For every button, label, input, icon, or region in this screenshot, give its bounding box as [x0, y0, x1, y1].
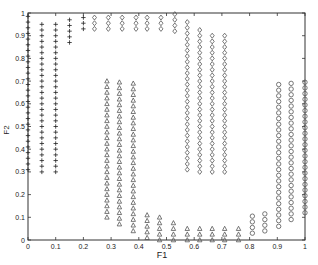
axes-frame: [28, 13, 305, 240]
y-tick-label: 0: [21, 237, 25, 244]
scatter-chart: 00.10.20.30.40.50.60.70.80.91 00.10.20.3…: [0, 0, 318, 265]
x-tick-label: 0.4: [134, 243, 144, 250]
x-tick-label: 0: [26, 243, 30, 250]
y-tick-label: 0.6: [15, 100, 25, 107]
x-tick-label: 0.6: [189, 243, 199, 250]
y-axis-ticks: 00.10.20.30.40.50.60.70.80.91: [15, 10, 305, 244]
x-tick-label: 0.9: [272, 243, 282, 250]
x-tick-label: 0.8: [245, 243, 255, 250]
x-tick-label: 0.1: [51, 243, 61, 250]
y-tick-label: 0.8: [15, 55, 25, 62]
y-tick-label: 0.3: [15, 168, 25, 175]
y-axis-label: F2: [2, 125, 11, 135]
y-tick-label: 0.7: [15, 78, 25, 85]
x-tick-label: 0.5: [162, 243, 172, 250]
x-axis-label: F1: [157, 250, 168, 260]
x-tick-label: 0.7: [217, 243, 227, 250]
y-tick-label: 0.4: [15, 146, 25, 153]
y-tick-label: 0.5: [15, 123, 25, 130]
y-tick-label: 0.9: [15, 32, 25, 39]
plot-area: 00.10.20.30.40.50.60.70.80.91 00.10.20.3…: [0, 0, 318, 265]
x-tick-label: 1: [303, 243, 307, 250]
y-tick-label: 0.2: [15, 191, 25, 198]
x-tick-label: 0.3: [106, 243, 116, 250]
x-axis-ticks: 00.10.20.30.40.50.60.70.80.91: [26, 13, 307, 250]
y-tick-label: 0.1: [15, 214, 25, 221]
data-points: [26, 12, 307, 242]
x-tick-label: 0.2: [79, 243, 89, 250]
y-tick-label: 1: [21, 10, 25, 17]
